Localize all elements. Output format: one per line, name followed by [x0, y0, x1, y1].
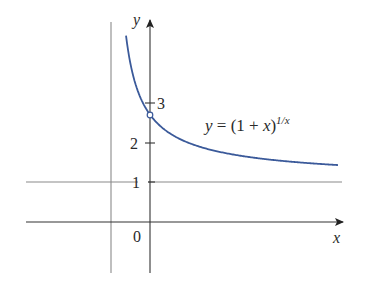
x-axis-label: x	[332, 229, 340, 246]
y-tick-label-1: 1	[132, 174, 140, 191]
open-point-hole	[147, 112, 153, 118]
y-axis-label: y	[131, 11, 141, 29]
y-tick-label-2: 2	[130, 135, 138, 152]
x-tick-label-0: 0	[133, 228, 141, 245]
function-graph: 3 2 1 0 x y y = (1 + x)1/x	[0, 0, 371, 294]
equation-label: y = (1 + x)1/x	[203, 114, 290, 135]
y-tick-label-3: 3	[157, 95, 165, 112]
